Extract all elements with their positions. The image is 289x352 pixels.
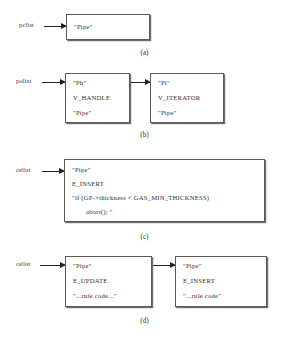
node-line-code-1: "if (GP->thickness < GAS_MIN_THICKNESS) [72, 194, 209, 201]
panel-d: celist "Pipe" E_UPDATE "...rule code..."… [0, 252, 289, 352]
pointer-label-polist: polist [16, 77, 31, 84]
node-line-code-2: abort(); " [72, 208, 113, 215]
arrow-celist-to-box [40, 265, 65, 266]
node-box-c1: "Pipe" E_INSERT "if (GP->thickness < GAS… [64, 159, 265, 222]
node-line-kind: V_HANDLE [73, 94, 110, 101]
node-box-a1: "Pipe" [66, 14, 150, 40]
caption-a: (a) [0, 49, 289, 57]
node-line-type: "Ph" [73, 79, 86, 86]
node-line-type: "Pi" [158, 79, 170, 86]
arrow-pclist-to-box [44, 26, 66, 27]
node-line-target: "Pipe" [158, 109, 177, 116]
node-box-b2: "Pi" V_ITERATOR "Pipe" [150, 73, 224, 123]
node-line-kind: E_INSERT [72, 180, 104, 187]
node-line-type: "Pipe" [74, 23, 93, 30]
node-box-d2: "Pipe" E_INSERT "...rule code" [175, 256, 267, 307]
panel-a: pclist "Pipe" (a) [0, 0, 289, 68]
arrow-celist-to-box [42, 171, 64, 172]
arrow-b1-to-b2 [131, 82, 150, 83]
node-box-d1: "Pipe" E_UPDATE "...rule code..." [65, 256, 152, 307]
arrow-d1-to-d2 [153, 265, 175, 266]
pointer-label-celist: celist [16, 166, 31, 173]
node-line-code: "...rule code" [183, 292, 221, 299]
node-line-type: "Pipe" [73, 262, 92, 269]
node-line-target: "Pipe" [73, 109, 92, 116]
node-line-kind: V_ITERATOR [158, 94, 200, 101]
node-line-code: "...rule code..." [73, 292, 117, 299]
pointer-label-celist: celist [16, 260, 31, 267]
pointer-label-pclist: pclist [19, 21, 34, 28]
node-line-type: "Pipe" [72, 166, 91, 173]
caption-d: (d) [0, 317, 289, 325]
node-box-b1: "Ph" V_HANDLE "Pipe" [65, 73, 130, 123]
node-line-kind: E_UPDATE [73, 277, 108, 284]
node-line-type: "Pipe" [183, 262, 202, 269]
node-line-kind: E_INSERT [183, 277, 215, 284]
panel-b: polist "Ph" V_HANDLE "Pipe" "Pi" V_ITERA… [0, 68, 289, 150]
caption-c: (c) [0, 233, 289, 241]
panel-c: celist "Pipe" E_INSERT "if (GP->thicknes… [0, 150, 289, 252]
caption-b: (b) [0, 131, 289, 139]
arrow-polist-to-box [42, 82, 65, 83]
